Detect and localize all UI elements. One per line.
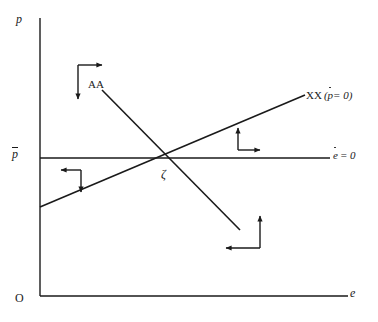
p-bar-label: p <box>12 147 18 160</box>
diagram-canvas <box>0 0 378 322</box>
phase-diagram-figure: p p O e e= 0 XX(p= 0) AA ζ <box>0 0 378 322</box>
p-axis-label: p <box>16 13 22 25</box>
pdot-variable: p <box>328 90 334 101</box>
edot-equation-rhs: = 0 <box>340 149 356 161</box>
edot-variable: e <box>333 150 338 161</box>
xx-curve-line <box>40 95 305 207</box>
e-axis-label: e <box>350 287 355 299</box>
xx-curve-label: XX(p= 0) <box>306 90 352 101</box>
pdot-variable-text: p <box>328 89 334 101</box>
arrows-left-middle <box>61 170 81 192</box>
edot-variable-text: e <box>333 149 338 161</box>
aa-curve-line <box>102 90 240 230</box>
p-bar-overbar-text: p <box>12 147 18 160</box>
equilibrium-point-label: ζ <box>161 168 166 180</box>
edot-zero-label: e= 0 <box>333 150 356 161</box>
xx-equation-rhs: = 0 <box>333 89 349 101</box>
xx-paren-close: ) <box>349 89 353 101</box>
origin-label: O <box>15 292 24 304</box>
arrows-right-middle <box>238 128 260 150</box>
xx-curve-name: XX <box>306 89 322 101</box>
aa-curve-label: AA <box>88 79 104 90</box>
